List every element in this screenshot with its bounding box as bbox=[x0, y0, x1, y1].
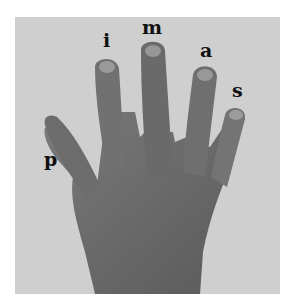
little-nail bbox=[229, 110, 243, 120]
index-finger-shape bbox=[95, 59, 125, 172]
label-thumb: p bbox=[44, 150, 57, 169]
label-ring: a bbox=[200, 41, 212, 60]
label-index: i bbox=[103, 31, 110, 50]
label-little: s bbox=[232, 81, 243, 100]
index-nail bbox=[99, 61, 115, 73]
middle-nail bbox=[145, 45, 161, 57]
ring-nail bbox=[197, 69, 213, 81]
label-middle: m bbox=[142, 18, 162, 37]
middle-finger-shape bbox=[141, 42, 173, 177]
